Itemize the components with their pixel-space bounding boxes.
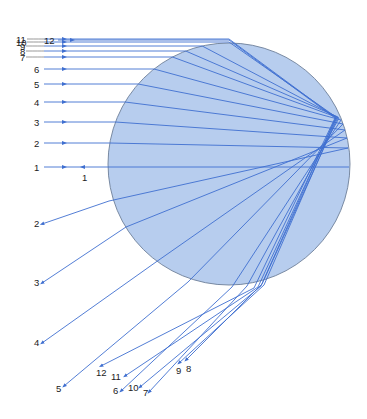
- outgoing-ray-label: 4: [34, 337, 39, 348]
- outgoing-ray-label: 5: [56, 383, 61, 394]
- arrowhead-icon: [62, 55, 67, 59]
- arrowhead-icon: [62, 44, 67, 48]
- outgoing-ray-label: 3: [34, 277, 39, 288]
- incoming-ray-label: 11: [16, 34, 26, 45]
- outgoing-ray-label: 6: [113, 385, 118, 396]
- raindrop-ray-diagram: 123456789101112123456789101112: [0, 0, 367, 419]
- outgoing-ray-4: [42, 262, 156, 343]
- arrowhead-icon: [62, 120, 67, 124]
- reflected-ray-label: 1: [82, 172, 87, 183]
- arrowhead-icon: [62, 165, 67, 169]
- outgoing-ray-label: 11: [111, 371, 121, 382]
- outgoing-ray-label: 8: [186, 363, 191, 374]
- reflected-arrowhead-icon: [80, 165, 85, 169]
- outgoing-ray-label: 7: [143, 387, 148, 398]
- outgoing-ray-label: 2: [34, 218, 39, 229]
- incoming-ray-label: 6: [34, 64, 39, 75]
- arrowhead-icon: [62, 67, 67, 71]
- incoming-ray-label: 5: [34, 79, 39, 90]
- arrowhead-icon: [62, 82, 67, 86]
- incoming-ray-label: 1: [34, 162, 39, 173]
- incoming-ray-label: 2: [34, 138, 39, 149]
- outgoing-ray-3: [42, 227, 126, 283]
- outgoing-ray-11: [125, 287, 258, 376]
- incoming-ray-label: 3: [34, 117, 39, 128]
- incoming-ray-label: 4: [34, 97, 39, 108]
- arrowhead-icon: [62, 100, 67, 104]
- incoming-ray-label: 12: [44, 35, 55, 46]
- arrowhead-icon: [62, 49, 67, 53]
- ray-diagram-canvas: 123456789101112123456789101112: [0, 0, 367, 419]
- arrowhead-icon: [62, 141, 67, 145]
- outgoing-ray-label: 9: [176, 365, 181, 376]
- outgoing-ray-12: [101, 288, 254, 366]
- outgoing-ray-label: 12: [96, 367, 107, 378]
- outgoing-ray-label: 10: [128, 382, 139, 393]
- outgoing-ray-2: [42, 201, 109, 224]
